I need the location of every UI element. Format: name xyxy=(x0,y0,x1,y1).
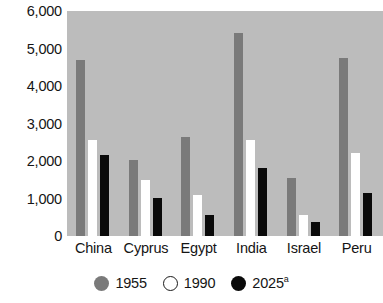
x-axis-tick-label-peru: Peru xyxy=(324,238,383,258)
chart-legend: 195519902025a xyxy=(0,268,383,298)
legend-entry-1955[interactable]: 1955 xyxy=(94,276,146,291)
legend-label-text: 1955 xyxy=(115,275,146,291)
bar-china-2025 xyxy=(100,155,109,236)
legend-label: 1955 xyxy=(115,276,146,291)
y-axis-tick-label: 2,000 xyxy=(0,154,62,169)
filled-black-circle-icon xyxy=(231,276,246,291)
bar-india-2025 xyxy=(258,168,267,236)
y-axis-tick-label: 6,000 xyxy=(0,4,62,19)
y-axis-tick-label: 5,000 xyxy=(0,42,62,57)
bar-israel-2025 xyxy=(311,222,320,236)
legend-label-text: 1990 xyxy=(184,275,215,291)
bar-china-1990 xyxy=(88,140,97,236)
bar-egypt-2025 xyxy=(205,215,214,236)
bar-cyprus-2025 xyxy=(153,198,162,236)
x-axis: ChinaCyprusEgyptIndiaIsraelPeru xyxy=(67,238,383,260)
legend-entry-1990[interactable]: 1990 xyxy=(163,276,215,291)
outlined-white-circle-icon xyxy=(163,276,178,291)
bar-peru-1955 xyxy=(339,58,348,236)
y-axis-tick-label: 0 xyxy=(0,229,62,244)
bar-peru-1990 xyxy=(351,153,360,236)
legend-entry-2025[interactable]: 2025a xyxy=(231,276,288,291)
bar-peru-2025 xyxy=(363,193,372,236)
bar-chart-figure: · · · 6,0005,0004,0003,0002,0001,0000 Ch… xyxy=(0,0,383,303)
legend-label-footnote-marker: a xyxy=(284,274,289,284)
bar-cyprus-1990 xyxy=(141,180,150,236)
bar-israel-1955 xyxy=(287,178,296,236)
bar-china-1955 xyxy=(76,60,85,236)
bar-israel-1990 xyxy=(299,215,308,236)
bar-india-1955 xyxy=(234,33,243,236)
bar-egypt-1990 xyxy=(193,195,202,236)
legend-label-text: 2025 xyxy=(252,275,283,291)
y-axis-tick-label: 1,000 xyxy=(0,192,62,207)
y-axis: 6,0005,0004,0003,0002,0001,0000 xyxy=(0,0,62,240)
legend-label: 2025a xyxy=(252,276,288,291)
bar-india-1990 xyxy=(246,140,255,236)
y-axis-tick-label: 3,000 xyxy=(0,117,62,132)
y-axis-tick-label: 4,000 xyxy=(0,79,62,94)
filled-gray-circle-icon xyxy=(94,276,109,291)
legend-label: 1990 xyxy=(184,276,215,291)
bar-cyprus-1955 xyxy=(129,160,138,236)
bar-egypt-1955 xyxy=(181,137,190,236)
plot-area xyxy=(67,11,383,236)
